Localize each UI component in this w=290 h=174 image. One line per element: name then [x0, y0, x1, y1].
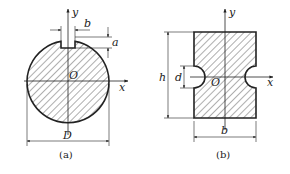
x-axis-label: x	[119, 81, 126, 94]
width-label-b: b	[221, 124, 228, 137]
figure-a: y x O b a D (a)	[24, 6, 128, 160]
y-axis-label-b: y	[228, 6, 236, 19]
keyway-depth-label: a	[112, 36, 119, 49]
diagram-canvas: y x O b a D (a) y x O	[0, 0, 290, 174]
diameter-label: D	[62, 129, 72, 142]
height-label: h	[159, 71, 166, 84]
caption-b: (b)	[216, 149, 230, 160]
caption-a: (a)	[59, 149, 73, 160]
origin-label-b: O	[211, 76, 220, 89]
origin-label: O	[69, 69, 78, 82]
figure-b: y x O h d b (b)	[159, 6, 274, 160]
keyway-width-label: b	[84, 17, 91, 30]
y-axis-label: y	[71, 6, 79, 19]
x-axis-label-b: x	[267, 76, 274, 89]
notch-diameter-label: d	[175, 71, 182, 84]
